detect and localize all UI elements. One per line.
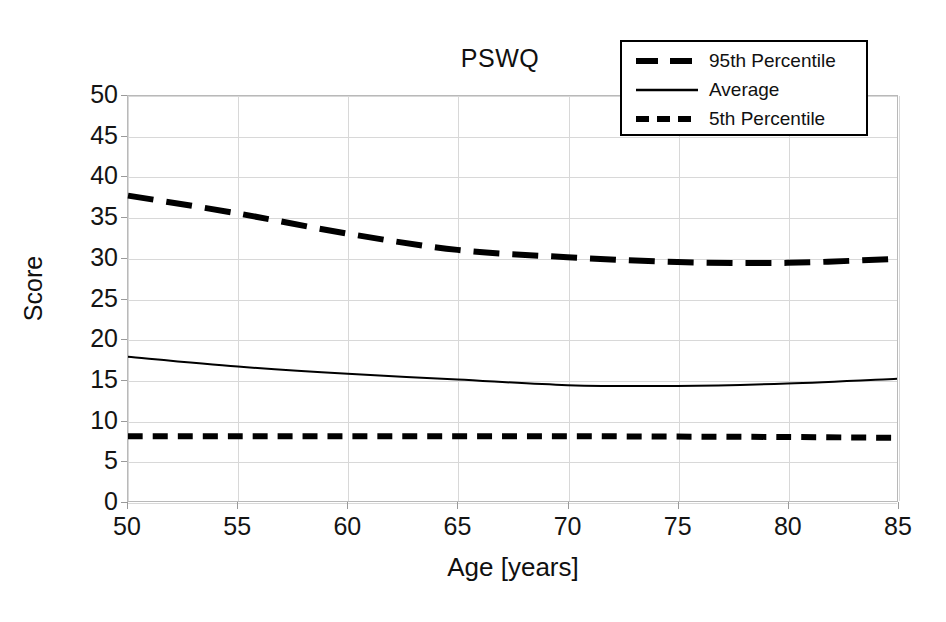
x-tick-label: 85 <box>863 512 933 540</box>
x-tick-label: 70 <box>533 512 603 540</box>
x-tick-mark <box>568 502 569 509</box>
legend-label-5th-percentile: 5th Percentile <box>709 109 825 128</box>
x-tick-label: 65 <box>422 512 492 540</box>
x-tick-mark <box>678 502 679 509</box>
series-line-95th-percentile <box>128 196 897 263</box>
y-tick-label: 30 <box>52 245 118 270</box>
y-tick-label: 10 <box>52 408 118 433</box>
y-tick-label: 35 <box>52 204 118 229</box>
x-tick-label: 60 <box>312 512 382 540</box>
legend-item-5th-percentile: 5th Percentile <box>622 104 866 133</box>
y-axis-label: Score <box>19 234 48 344</box>
x-tick-mark <box>237 502 238 509</box>
gridline-vertical <box>899 96 900 501</box>
x-tick-mark <box>788 502 789 509</box>
chart-title: PSWQ <box>400 44 600 73</box>
y-tick-label: 50 <box>52 82 118 107</box>
y-tick-label: 40 <box>52 163 118 188</box>
series-layer <box>128 96 897 501</box>
x-tick-label: 50 <box>92 512 162 540</box>
x-tick-mark <box>127 502 128 509</box>
y-tick-label: 20 <box>52 326 118 351</box>
x-tick-label: 55 <box>202 512 272 540</box>
legend-item-95th-percentile: 95th Percentile <box>622 46 866 75</box>
legend-label-95th-percentile: 95th Percentile <box>709 51 836 70</box>
x-tick-label: 75 <box>643 512 713 540</box>
y-tick-label: 5 <box>52 448 118 473</box>
y-tick-label: 0 <box>52 489 118 514</box>
y-tick-label: 15 <box>52 367 118 392</box>
x-tick-mark <box>457 502 458 509</box>
plot-area <box>127 95 898 502</box>
x-axis-label: Age [years] <box>273 552 753 583</box>
legend-swatch-short-dash-icon <box>635 112 699 126</box>
legend-swatch-solid-icon <box>635 83 699 97</box>
x-tick-mark <box>898 502 899 509</box>
legend-item-average: Average <box>622 75 866 104</box>
legend-label-average: Average <box>709 80 779 99</box>
chart-figure: PSWQ Score 50454035302520151050 50556065… <box>0 0 946 622</box>
gridline-horizontal <box>128 503 897 504</box>
series-line-5th-percentile <box>128 436 897 438</box>
y-tick-label: 45 <box>52 123 118 148</box>
x-tick-mark <box>347 502 348 509</box>
legend: 95th Percentile Average 5th Percentile <box>620 40 868 136</box>
series-line-average <box>128 357 897 386</box>
legend-swatch-long-dash-icon <box>635 54 699 68</box>
x-tick-label: 80 <box>753 512 823 540</box>
y-tick-label: 25 <box>52 286 118 311</box>
